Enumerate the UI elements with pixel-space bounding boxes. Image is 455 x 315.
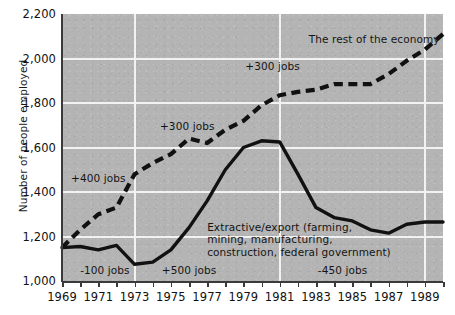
x-tick xyxy=(389,282,391,287)
annotation-plus-400: +400 jobs xyxy=(71,172,126,185)
y-tick-label: 1,400 xyxy=(14,185,56,199)
x-axis-line xyxy=(62,281,443,283)
x-tick-label: 1973 xyxy=(115,290,155,304)
annotation-plus-500: +500 jobs xyxy=(162,264,217,277)
annotation-minus-100: -100 jobs xyxy=(80,264,130,277)
plot-area: The rest of the economy+300 jobs+300 job… xyxy=(62,14,443,281)
x-tick-label: 1977 xyxy=(187,290,227,304)
annotation-extractive-label: Extractive/export (farming, mining, manu… xyxy=(207,221,391,259)
x-tick-label: 1971 xyxy=(78,290,118,304)
x-tick xyxy=(80,282,82,287)
x-tick xyxy=(352,282,354,287)
x-tick xyxy=(116,282,118,287)
x-tick-label: 1981 xyxy=(260,290,300,304)
x-tick-label: 1975 xyxy=(151,290,191,304)
y-tick-label: 2,000 xyxy=(14,52,56,66)
x-tick-label: 1989 xyxy=(405,290,445,304)
x-tick xyxy=(334,282,336,287)
x-tick-label: 1987 xyxy=(369,290,409,304)
x-tick xyxy=(135,282,137,287)
annotation-rest-of-economy-label: The rest of the economy xyxy=(309,33,440,46)
employment-line-chart: Number of people employed 2,2002,0001,80… xyxy=(0,0,455,315)
x-tick xyxy=(407,282,409,287)
x-tick xyxy=(189,282,191,287)
y-tick-label: 1,000 xyxy=(14,274,56,288)
x-tick-label: 1969 xyxy=(42,290,82,304)
x-tick xyxy=(62,282,64,287)
x-tick xyxy=(207,282,209,287)
x-tick xyxy=(316,282,318,287)
x-tick xyxy=(225,282,227,287)
x-tick-label: 1985 xyxy=(332,290,372,304)
x-tick xyxy=(425,282,427,287)
y-tick-label: 1,200 xyxy=(14,230,56,244)
x-tick xyxy=(443,282,445,287)
x-tick xyxy=(98,282,100,287)
x-tick xyxy=(280,282,282,287)
y-tick-label: 1,600 xyxy=(14,141,56,155)
x-tick xyxy=(370,282,372,287)
x-tick-label: 1979 xyxy=(223,290,263,304)
x-tick xyxy=(298,282,300,287)
y-axis-tick-labels: 2,2002,0001,8001,6001,4001,2001,000 xyxy=(8,0,56,315)
x-tick xyxy=(243,282,245,287)
y-axis-line xyxy=(61,14,63,282)
annotation-plus-300-upper: +300 jobs xyxy=(245,60,300,73)
x-tick-label: 1983 xyxy=(296,290,336,304)
x-tick xyxy=(153,282,155,287)
y-tick-label: 2,200 xyxy=(14,7,56,21)
y-tick-label: 1,800 xyxy=(14,96,56,110)
x-tick xyxy=(262,282,264,287)
annotation-plus-300-lower: +300 jobs xyxy=(160,120,215,133)
x-tick xyxy=(171,282,173,287)
annotation-minus-450: -450 jobs xyxy=(318,264,368,277)
